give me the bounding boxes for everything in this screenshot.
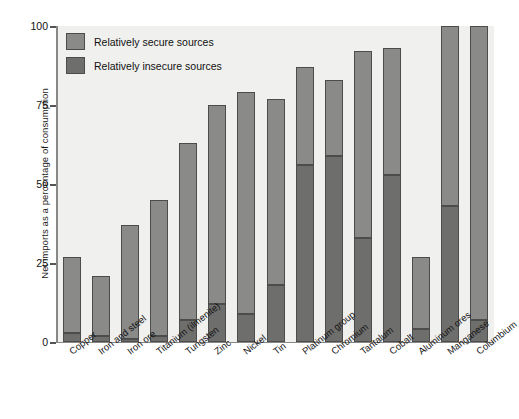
bar-segment-secure [325,80,343,156]
legend-item-secure: Relatively secure sources [66,31,222,52]
y-tick-mark [50,26,56,28]
bar-segment-secure [92,276,110,336]
bar-segment-secure [470,26,488,320]
bar-platinum-group[interactable] [296,67,314,342]
bar-segment-insecure [325,156,343,342]
bar-aluminum-ores[interactable] [412,257,430,342]
bar-segment-secure [383,48,401,174]
legend-item-insecure: Relatively insecure sources [66,55,222,76]
legend-label-secure: Relatively secure sources [94,36,214,48]
chart-legend: Relatively secure sources Relatively ins… [66,31,222,79]
bar-segment-insecure [296,165,314,342]
bar-segment-insecure [267,285,285,342]
y-tick-label: 100 [8,20,48,32]
bar-titanium-ilmenite[interactable] [150,200,168,342]
y-tick-mark [50,105,56,107]
y-tick-label: 75 [8,99,48,111]
y-tick-label: 0 [8,336,48,348]
bar-chromium[interactable] [325,80,343,342]
y-tick-label: 25 [8,257,48,269]
y-tick-mark [50,263,56,265]
bar-segment-insecure [383,175,401,342]
bar-tungsten[interactable] [179,143,197,342]
bar-segment-secure [296,67,314,165]
bar-segment-secure [179,143,197,320]
y-tick-label: 50 [8,178,48,190]
bar-segment-secure [267,99,285,285]
y-tick-mark [50,342,56,344]
bar-segment-secure [412,257,430,330]
bar-cobalt[interactable] [383,48,401,342]
bar-columbium[interactable] [470,26,488,342]
bar-segment-secure [354,51,372,237]
legend-label-insecure: Relatively insecure sources [94,60,222,72]
legend-swatch-insecure-icon [66,57,85,74]
bar-manganese[interactable] [441,26,459,342]
y-tick-mark [50,184,56,186]
bar-segment-secure [441,26,459,206]
legend-swatch-secure-icon [66,33,85,50]
bar-tin[interactable] [267,99,285,342]
bar-tantalum[interactable] [354,51,372,342]
bar-nickel[interactable] [237,92,255,342]
bar-segment-secure [208,105,226,304]
bar-copper[interactable] [63,257,81,342]
bar-segment-secure [237,92,255,313]
bar-segment-secure [150,200,168,336]
bar-segment-secure [63,257,81,333]
